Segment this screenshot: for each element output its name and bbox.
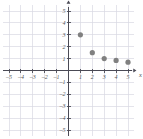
- x-axis-label: x: [139, 72, 142, 79]
- x-tick-label: –4: [17, 74, 25, 80]
- x-tick-label: –3: [29, 74, 37, 80]
- y-tick-label: –4: [58, 115, 66, 121]
- y-tick-label: 5: [58, 8, 66, 14]
- x-tick-label: –2: [41, 74, 49, 80]
- y-tick-label: 3: [58, 32, 66, 38]
- x-axis-arrow: [133, 69, 136, 73]
- y-tick-label: –5: [58, 127, 66, 133]
- coordinate-plane-chart: [0, 0, 143, 139]
- x-tick-label: 3: [100, 74, 108, 80]
- y-tick-label: –3: [58, 103, 66, 109]
- data-point: [114, 58, 119, 63]
- x-tick-label: 1: [76, 74, 84, 80]
- y-tick-label: –2: [58, 91, 66, 97]
- y-axis-label: y: [71, 0, 74, 1]
- data-point: [78, 32, 83, 37]
- x-tick-label: 5: [124, 74, 132, 80]
- y-tick-label: –1: [58, 79, 66, 85]
- x-tick-label: 2: [88, 74, 96, 80]
- x-tick-label: –5: [5, 74, 13, 80]
- y-tick-label: 4: [58, 20, 66, 26]
- graph-screenshot: –5–4–3–2–11234554321–1–2–3–4–5 x y: [0, 0, 143, 139]
- data-point: [125, 60, 130, 65]
- y-axis-arrow: [67, 1, 71, 4]
- x-tick-label: 4: [112, 74, 120, 80]
- y-tick-label: 1: [58, 56, 66, 62]
- data-point: [90, 50, 95, 55]
- y-tick-label: 2: [58, 44, 66, 50]
- data-point: [102, 56, 107, 61]
